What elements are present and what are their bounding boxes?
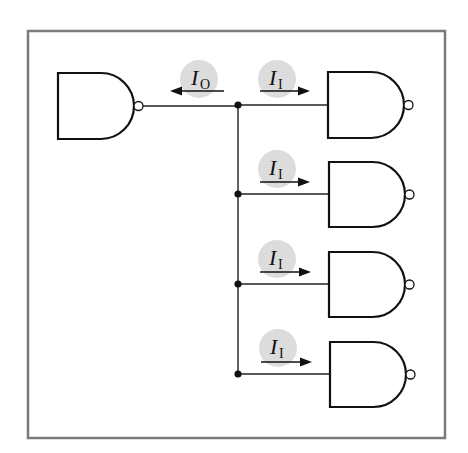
inverter-bubble-icon [405, 280, 414, 289]
nand-gate-body [329, 252, 405, 317]
arrow-right-icon [300, 358, 312, 367]
arrow-right-icon [298, 87, 310, 96]
fanout-diagram: IIIIIIIIIO [0, 0, 468, 453]
inverter-bubble-icon [406, 370, 415, 379]
load-nand-gate-1 [328, 72, 413, 138]
input-current-label-4: II [259, 329, 312, 367]
input-current-label-3: II [258, 240, 311, 278]
inverter-bubble-icon [405, 190, 414, 199]
nand-gate-body [58, 73, 134, 139]
arrow-right-icon [298, 178, 310, 187]
junction-dot-icon [234, 190, 241, 197]
load-nand-gate-2 [329, 162, 414, 227]
current-subscript: I [279, 346, 284, 361]
current-subscript: I [278, 77, 283, 92]
load-nand-gate-4 [330, 342, 415, 407]
nand-gate-body [330, 342, 406, 407]
label-highlight [180, 60, 218, 98]
current-subscript: I [278, 257, 283, 272]
output-current-label: IO [170, 60, 224, 98]
junction-dot-icon [234, 370, 241, 377]
inverter-bubble-icon [134, 102, 143, 111]
gates [58, 72, 415, 407]
input-current-label-1: II [258, 60, 310, 98]
current-subscript: O [200, 77, 210, 92]
inverter-bubble-icon [404, 101, 413, 110]
current-subscript: I [278, 167, 283, 182]
nand-gate-body [328, 72, 404, 138]
junction-dot-icon [234, 101, 241, 108]
arrow-left-icon [170, 87, 182, 96]
junction-dot-icon [234, 280, 241, 287]
load-nand-gate-3 [329, 252, 414, 317]
driver-nand-gate [58, 73, 143, 139]
nand-gate-body [329, 162, 405, 227]
arrow-right-icon [299, 268, 311, 277]
wires [143, 101, 330, 377]
input-current-label-2: II [258, 150, 310, 188]
label-highlight [258, 60, 296, 98]
